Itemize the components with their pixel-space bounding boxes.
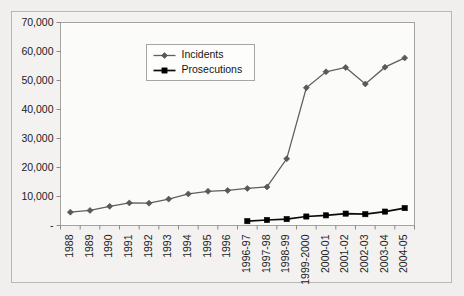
x-axis-tick-label: 2001-02 — [338, 234, 350, 273]
x-axis-tick-label: 1990 — [102, 234, 114, 258]
x-axis-tick-label: 1992 — [142, 234, 154, 258]
data-point-prosecutions — [284, 217, 289, 222]
data-point-prosecutions — [382, 209, 387, 214]
x-axis-tick-label: 1988 — [63, 234, 75, 258]
x-axis-tick-label: 1993 — [161, 234, 173, 258]
x-axis-tick-label: 2002-03 — [358, 234, 370, 273]
x-axis-tick-label: 1995 — [201, 234, 213, 258]
legend-label-incidents: Incidents — [182, 48, 224, 60]
x-axis-tick-label: 1997-98 — [260, 234, 272, 273]
data-point-prosecutions — [264, 217, 269, 222]
data-point-prosecutions — [402, 206, 407, 211]
y-axis-tick-label: 20,000 — [21, 161, 53, 173]
y-axis: 70,00060,00050,00040,00030,00020,00010,0… — [21, 16, 60, 231]
x-axis-tick-label: 2004-05 — [397, 234, 409, 273]
x-axis-tick-label: 1998-99 — [279, 234, 291, 273]
chart-surface: 70,00060,00050,00040,00030,00020,00010,0… — [0, 0, 464, 296]
x-axis-tick-label: 1996-97 — [240, 234, 252, 273]
x-axis-tick-label: 1994 — [181, 234, 193, 258]
line-chart-svg: 70,00060,00050,00040,00030,00020,00010,0… — [0, 0, 464, 296]
x-axis: 1988198919901991199219931994199519961996… — [61, 226, 415, 285]
data-point-prosecutions — [363, 212, 368, 217]
data-point-prosecutions — [304, 214, 309, 219]
data-point-prosecutions — [323, 213, 328, 218]
x-axis-tick-label: 2000-01 — [319, 234, 331, 273]
legend-swatch-marker — [162, 68, 167, 73]
data-point-prosecutions — [343, 211, 348, 216]
x-axis-tick-label: 1989 — [83, 234, 95, 258]
data-point-prosecutions — [245, 219, 250, 224]
x-axis-tick-label: 2003-04 — [378, 234, 390, 273]
y-axis-tick-label: 40,000 — [21, 103, 53, 115]
y-axis-tick-label: 30,000 — [21, 132, 53, 144]
y-axis-tick-label: 10,000 — [21, 190, 53, 202]
y-axis-tick-label: 50,000 — [21, 74, 53, 86]
x-axis-tick-label: 1991 — [122, 234, 134, 258]
legend-label-prosecutions: Prosecutions — [182, 63, 243, 75]
x-axis-tick-label: 1996 — [220, 234, 232, 258]
y-axis-tick-label: - — [50, 219, 54, 231]
chart-legend: IncidentsProsecutions — [147, 45, 255, 81]
chart-figure: 70,00060,00050,00040,00030,00020,00010,0… — [0, 0, 464, 296]
x-axis-tick-label: 1999-2000 — [299, 234, 311, 284]
y-axis-tick-label: 70,000 — [21, 16, 53, 28]
y-axis-tick-label: 60,000 — [21, 45, 53, 57]
